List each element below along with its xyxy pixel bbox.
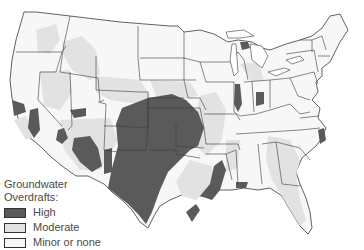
legend-title: Groundwater Overdrafts: (4, 178, 101, 204)
legend-swatch-high (4, 208, 26, 218)
legend-item-minor: Minor or none (4, 235, 101, 250)
legend-swatch-minor (4, 238, 26, 248)
legend-label-minor: Minor or none (33, 236, 101, 249)
high-indiana (256, 92, 264, 106)
legend-item-high: High (4, 205, 101, 220)
high-new-mexico-east (104, 148, 112, 174)
high-texas-coast (186, 204, 200, 222)
legend: Groundwater Overdrafts: High Moderate Mi… (4, 178, 101, 250)
legend-label-high: High (33, 206, 56, 219)
legend-label-moderate: Moderate (33, 221, 79, 234)
legend-item-moderate: Moderate (4, 220, 101, 235)
legend-swatch-moderate (4, 223, 26, 233)
legend-title-line1: Groundwater (4, 178, 101, 191)
legend-title-line2: Overdrafts: (4, 191, 101, 204)
